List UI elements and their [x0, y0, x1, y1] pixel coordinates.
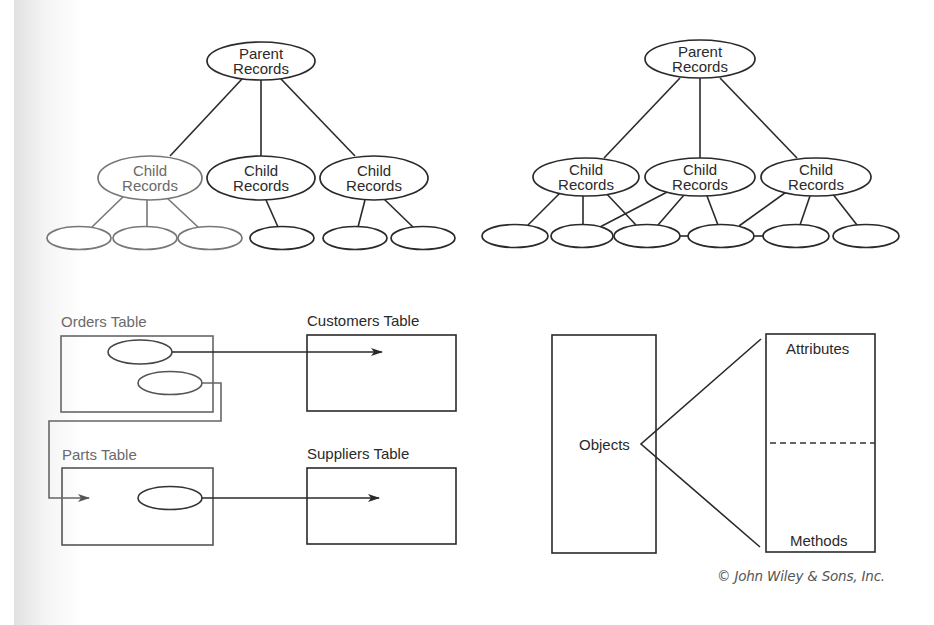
orders-to-parts-arrow [49, 383, 221, 498]
leaf-record-node [551, 225, 613, 248]
parts-table-label: Parts Table [62, 446, 137, 463]
node-label-line2: Records [558, 176, 614, 193]
hierarchical-model-tree: ParentRecordsChildRecordsChildRecordsChi… [47, 42, 455, 250]
objects-label: Objects [579, 436, 630, 453]
child-records-node: ChildRecords [98, 156, 202, 200]
node-label-line2: Records [788, 176, 844, 193]
leaf-record-node [113, 227, 177, 250]
node-label-line2: Records [233, 60, 289, 77]
tree-edge [604, 191, 636, 225]
methods-label: Methods [790, 532, 848, 549]
leaf-record-node [47, 227, 111, 250]
leaf-record-node [178, 227, 242, 250]
node-label-line2: Records [233, 177, 289, 194]
tree-edge [658, 195, 684, 225]
tree-edge [384, 199, 413, 227]
tree-edge [800, 196, 810, 225]
tree-edge [266, 200, 278, 227]
object-expansion-wedge [641, 339, 761, 547]
tree-edge [528, 190, 563, 225]
suppliers-table-label: Suppliers Table [307, 445, 409, 462]
object-model: Objects Attributes Methods [552, 334, 875, 553]
leaf-record-node [763, 225, 829, 248]
copyright-notice: © John Wiley & Sons, Inc. [717, 568, 885, 584]
node-label-line2: Records [672, 176, 728, 193]
attributes-label: Attributes [786, 340, 849, 357]
tree-edge [604, 78, 680, 158]
leaf-record-node [323, 227, 387, 250]
node-label-line2: Records [122, 177, 178, 194]
tree-edge [167, 198, 198, 227]
leaf-record-node [482, 225, 548, 248]
node-label-line2: Records [346, 177, 402, 194]
suppliers-table-box [307, 468, 456, 544]
tree-edge [707, 196, 718, 225]
tree-edge [720, 78, 797, 158]
orders-key-part [138, 372, 202, 395]
tree-edge [281, 79, 355, 156]
parent-records-node: ParentRecords [645, 40, 755, 78]
relational-model: Orders Table Customers Table Parts Table… [49, 312, 456, 545]
tree-edge [739, 190, 789, 226]
tree-edge [92, 194, 126, 227]
leaf-record-node [688, 225, 754, 248]
leaf-record-node [833, 225, 899, 248]
customers-table-label: Customers Table [307, 312, 419, 329]
orders-table-label: Orders Table [61, 313, 147, 330]
tree-edge [170, 79, 242, 156]
leaf-record-node [614, 225, 680, 248]
child-records-node: ChildRecords [207, 156, 315, 200]
parent-records-node: ParentRecords [207, 42, 315, 80]
child-records-node: ChildRecords [320, 156, 428, 200]
child-records-node: ChildRecords [761, 158, 871, 196]
customers-table-box [307, 335, 456, 411]
database-models-diagram: ParentRecordsChildRecordsChildRecordsChi… [0, 0, 934, 625]
node-label-line2: Records [672, 58, 728, 75]
leaf-record-node [391, 227, 455, 250]
network-model-graph: ParentRecordsChildRecordsChildRecordsChi… [482, 40, 899, 248]
tree-edge [358, 200, 365, 227]
leaf-record-node [250, 227, 314, 250]
child-records-node: ChildRecords [645, 158, 755, 196]
tree-edge [832, 193, 857, 225]
child-records-node: ChildRecords [533, 158, 639, 196]
orders-key-customer [108, 340, 172, 364]
parts-key-supplier [138, 487, 202, 510]
